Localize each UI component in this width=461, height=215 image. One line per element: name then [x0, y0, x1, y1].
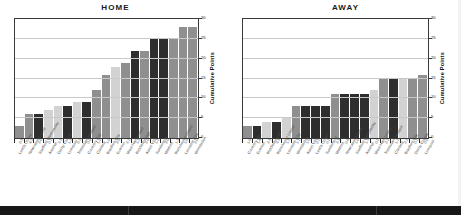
y-tick-label: 15 — [431, 75, 436, 79]
x-category-labels-away: Coventry CityEvertonMiddlesbroughManches… — [242, 153, 429, 199]
bar — [301, 106, 311, 138]
bar — [131, 51, 141, 138]
bar — [150, 39, 160, 138]
grid-line — [243, 97, 428, 98]
bar — [311, 106, 321, 138]
x-category-cell: West Ham United — [121, 153, 131, 199]
chart-title-away: AWAY — [230, 3, 461, 12]
x-category-cell: Liverpool — [63, 153, 73, 199]
y-tick-label: 15 — [201, 75, 206, 79]
bar — [188, 27, 198, 138]
x-category-cell: Tottenham Hotspur — [380, 153, 390, 199]
grid-line — [243, 18, 428, 19]
x-category-cell: Newcastle United — [24, 153, 34, 199]
chart-panel-home: HOME 051015202530 Cumulative Points 0-34… — [0, 0, 231, 200]
y-axis-title-away: Cumulative Points — [436, 18, 448, 139]
x-category-cell: Liverpool — [419, 153, 429, 199]
x-category-cell: Middlesbrough — [262, 153, 272, 199]
y-tick-label: 20 — [201, 56, 206, 60]
bar-series-home — [15, 19, 198, 138]
chart-title-home: HOME — [0, 3, 231, 12]
chart-panel-away: AWAY 051015202530 Cumulative Points 1-01… — [230, 0, 461, 200]
x-category-cell: Everton — [252, 153, 262, 199]
bar — [418, 75, 428, 138]
bar — [169, 39, 179, 138]
x-category-cell: Newcastle United — [340, 153, 350, 199]
grid-line — [15, 78, 198, 79]
x-category-cell: Sunderland — [150, 153, 160, 199]
y-axis-title-home: Cumulative Points — [206, 18, 218, 139]
bar — [408, 79, 418, 139]
x-category-cell: Leicester City — [179, 153, 189, 199]
x-axis-away: 1-01-42-33-31-31-11-00-10-22-30-61-01-30… — [242, 139, 429, 199]
bar — [179, 27, 189, 138]
bar — [102, 75, 112, 138]
x-category-cell: Chelsea — [92, 153, 102, 199]
grid-line — [15, 38, 198, 39]
x-category-cell: Bradford City — [102, 153, 112, 199]
y-tick-label: 30 — [201, 16, 206, 20]
x-category-cell: Sheffield Wednesday — [33, 153, 43, 199]
x-category-cell: Manchester United — [272, 153, 282, 199]
bar — [140, 51, 150, 138]
x-category-cell: Coventry City — [242, 153, 252, 199]
strip-seam — [376, 206, 377, 215]
x-category-cell: Sheffield Wednesday — [350, 153, 360, 199]
grid-line — [243, 38, 428, 39]
grid-line — [243, 78, 428, 79]
x-category-cell: Middlesbrough — [131, 153, 141, 199]
x-category-cell: Chelsea — [390, 153, 400, 199]
x-category-cell: Arsenal — [360, 153, 370, 199]
x-category-cell: Bradford City — [400, 153, 410, 199]
y-tick-label: 10 — [201, 95, 206, 99]
x-category-cell: Watford — [331, 153, 341, 199]
x-axis-home: 0-34-22-00-13-31-10-10-01-21-02-02-11-12… — [14, 139, 199, 199]
y-tick-label: 5 — [201, 115, 203, 119]
x-category-cell: Watford — [160, 153, 170, 199]
x-category-cell: Manchester United — [170, 153, 180, 199]
grid-line — [15, 117, 198, 118]
bar — [121, 63, 131, 138]
x-category-cell: West Ham United — [370, 153, 380, 199]
y-tick-label: 25 — [431, 36, 436, 40]
bar-series-away — [243, 19, 428, 138]
plot-area-away — [242, 18, 429, 139]
y-tick-label: 20 — [431, 56, 436, 60]
grid-line — [243, 58, 428, 59]
x-category-cell: Wimbledon — [291, 153, 301, 199]
x-category-cell: Leicester City — [281, 153, 291, 199]
x-category-cell: Arsenal — [43, 153, 53, 199]
bottom-strip — [0, 206, 461, 215]
x-category-cell: Tottenham Hotspur — [72, 153, 82, 199]
plot-area-home — [14, 18, 199, 139]
y-tick-label: 10 — [431, 95, 436, 99]
figure-root: HOME 051015202530 Cumulative Points 0-34… — [0, 0, 461, 215]
y-tick-label: 5 — [431, 115, 433, 119]
x-category-labels-home: Leeds UnitedNewcastle UnitedSheffield We… — [14, 153, 199, 199]
x-category-cell: Aston Villa — [301, 153, 311, 199]
bar — [159, 39, 169, 138]
y-axis-title-text-away: Cumulative Points — [439, 52, 445, 104]
x-category-cell: Sunderland — [321, 153, 331, 199]
grid-line — [15, 58, 198, 59]
y-axis-title-text-home: Cumulative Points — [209, 52, 215, 104]
x-category-cell: Leeds United — [14, 153, 24, 199]
strip-seam — [128, 206, 129, 215]
x-category-cell: Everton — [111, 153, 121, 199]
x-category-cell: Derby County — [409, 153, 419, 199]
bar — [15, 126, 25, 138]
bar — [262, 122, 272, 138]
x-category-cell: Wimbledon — [189, 153, 199, 199]
x-category-cell: Leeds United — [311, 153, 321, 199]
grid-line — [243, 117, 428, 118]
bar — [243, 126, 253, 138]
grid-line — [15, 18, 198, 19]
x-category-cell: Derby County — [53, 153, 63, 199]
x-category-cell: Coventry City — [82, 153, 92, 199]
y-tick-label: 30 — [431, 16, 436, 20]
bar — [73, 102, 83, 138]
y-tick-label: 25 — [201, 36, 206, 40]
x-category-cell: Aston Villa — [141, 153, 151, 199]
grid-line — [15, 97, 198, 98]
